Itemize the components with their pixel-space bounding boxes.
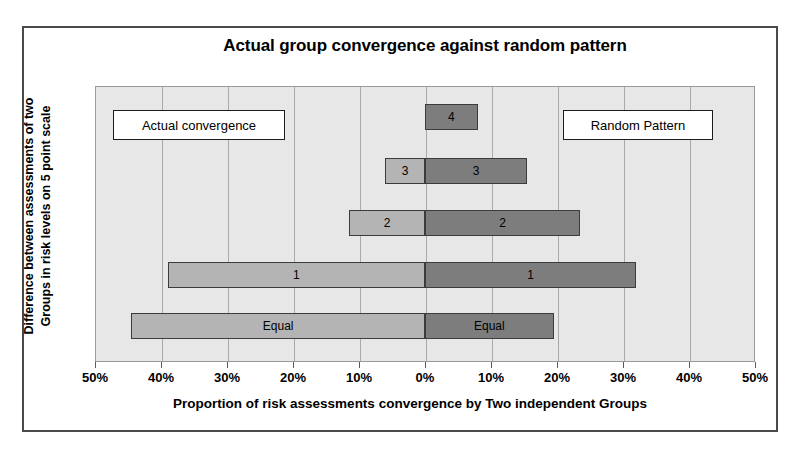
x-axis-tick	[161, 362, 162, 368]
x-tick-label: 10%	[461, 370, 521, 385]
bar-actual-convergence: 3	[385, 158, 425, 184]
x-tick-label: 30%	[197, 370, 257, 385]
bar-actual-convergence: 2	[349, 210, 425, 236]
x-axis-tick	[557, 362, 558, 368]
x-tick-label: 50%	[725, 370, 785, 385]
x-axis-tick	[293, 362, 294, 368]
x-axis-tick	[359, 362, 360, 368]
x-tick-label: 0%	[395, 370, 455, 385]
bar-random-pattern: 2	[425, 210, 580, 236]
x-axis-tick	[755, 362, 756, 368]
chart-title: Actual group convergence against random …	[95, 36, 755, 56]
bar-actual-convergence: Equal	[131, 313, 425, 339]
y-axis-title-line-2: Groups in risk levels on 5 point scale	[38, 51, 55, 381]
legend-actual-convergence: Actual convergence	[113, 110, 285, 140]
x-tick-label: 30%	[593, 370, 653, 385]
chart-screenshot: Actual group convergence against random …	[0, 0, 804, 461]
x-tick-label: 50%	[65, 370, 125, 385]
x-axis-tick	[623, 362, 624, 368]
x-tick-label: 20%	[263, 370, 323, 385]
x-tick-label: 40%	[131, 370, 191, 385]
bar-random-pattern: 4	[425, 104, 478, 130]
legend-random-pattern: Random Pattern	[563, 110, 713, 140]
bar-random-pattern: 1	[425, 262, 636, 288]
x-tick-label: 40%	[659, 370, 719, 385]
x-axis-tick	[227, 362, 228, 368]
y-axis-title-line-1: Difference between assessments of two	[21, 51, 38, 381]
bar-actual-convergence: 1	[168, 262, 425, 288]
x-tick-label: 10%	[329, 370, 389, 385]
y-axis-title: Difference between assessments of two Gr…	[21, 51, 61, 381]
x-tick-label: 20%	[527, 370, 587, 385]
x-axis-tick	[95, 362, 96, 368]
x-axis-title: Proportion of risk assessments convergen…	[60, 396, 760, 411]
x-axis-tick	[425, 362, 426, 368]
x-axis-tick	[689, 362, 690, 368]
bar-random-pattern: Equal	[425, 313, 554, 339]
x-axis-tick	[491, 362, 492, 368]
bar-random-pattern: 3	[425, 158, 527, 184]
